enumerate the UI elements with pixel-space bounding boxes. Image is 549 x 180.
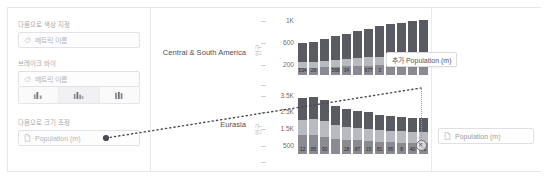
bar-segment [408, 118, 417, 132]
bar-value-label: 568 [331, 67, 340, 73]
right-drop-field[interactable]: Population (m) [438, 128, 534, 144]
color-by-input[interactable]: 메트릭 이름 [18, 32, 140, 48]
bar-segment [353, 111, 362, 128]
bar-segment [375, 26, 384, 56]
bar-segment [364, 57, 373, 65]
bar-segment [375, 57, 384, 66]
y-axis-panel-0: 인구 1K 600 200 [250, 11, 296, 89]
bar: 34 [342, 34, 351, 75]
bar-value-label: 85 [309, 146, 318, 152]
bar [397, 23, 406, 75]
size-by-value: Population (m) [35, 135, 81, 142]
bar-segment [342, 34, 351, 59]
bar-segment [353, 66, 362, 75]
bar-segment [364, 29, 373, 58]
bar-segment [397, 23, 406, 56]
break-by-label: 브레이크 바이 [18, 59, 140, 68]
bar-segment [353, 31, 362, 58]
bar: 12 [298, 98, 307, 154]
app-root: 다음으로 색상 지정 메트릭 이름 브레이크 바이 [0, 0, 549, 180]
bar: 90 [320, 100, 329, 154]
document-icon [444, 132, 451, 140]
bar-value-label: 12 [298, 146, 307, 152]
bar-segment [331, 139, 340, 154]
bar-segment [342, 109, 351, 127]
bar-segment [298, 98, 307, 120]
bar-value-label: 15 [364, 146, 373, 152]
y-tick-0-1: 600 [283, 39, 294, 46]
bar: 81 [375, 115, 384, 154]
bar-segment [320, 61, 329, 68]
size-by-input[interactable]: Population (m) [18, 130, 140, 146]
bar-segment [298, 120, 307, 135]
bar-segment [364, 112, 373, 128]
bars-stacked-icon-button[interactable] [59, 87, 99, 103]
y-tick-1-2: 1.5K [280, 125, 294, 132]
bar: 40 [408, 118, 417, 154]
chart-panel-1: 128590188715819584021 [296, 89, 430, 168]
bar-segment [397, 131, 406, 142]
bar-value-label: 18 [342, 146, 351, 152]
drag-tooltip-label: 추가 Population (m) [392, 55, 451, 65]
y-tick-0-0: 1K [286, 17, 294, 24]
bar-segment [386, 116, 395, 131]
close-icon[interactable] [416, 140, 427, 151]
bar [320, 39, 329, 75]
right-drop-panel: Population (m) [431, 8, 541, 171]
y-axis-column: 인구 1K 600 200 인구 3.5K 2.5K 1.5K 500 [250, 8, 296, 171]
bar: 87 [353, 111, 362, 154]
bar-group-2 [298, 170, 428, 171]
bar-segment [298, 43, 307, 62]
bars-clustered-icon-button[interactable] [100, 87, 139, 103]
bar: 568 [331, 36, 340, 75]
bar-segment [309, 42, 318, 62]
bar [386, 24, 395, 75]
bar-value-label: 87 [353, 146, 362, 152]
chart-type-toggle-group [18, 87, 140, 104]
row-label-eurasia: Eurasia [220, 120, 246, 129]
bar: 15 [364, 112, 373, 154]
bar-segment [397, 117, 406, 132]
bar-value-label: 534 [298, 67, 307, 73]
settings-sidebar: 다음으로 색상 지정 메트릭 이름 브레이크 바이 [8, 8, 151, 171]
y-tick-1-1: 2.5K [280, 108, 294, 115]
bar: 3 [375, 26, 384, 75]
bar-segment [331, 125, 340, 139]
bar: 677 [364, 29, 373, 76]
y-tick-1-0: 3.5K [280, 92, 294, 99]
row-label-central-south-america: Central & South America [163, 48, 246, 57]
break-by-input[interactable]: 메트릭 이름 [18, 71, 140, 87]
row-label-column: Central & South America Eurasia [152, 8, 250, 171]
tag-icon [24, 76, 31, 83]
break-by-group: 브레이크 바이 메트릭 이름 [18, 59, 140, 104]
bar-segment [331, 106, 340, 125]
bar: 8 [397, 117, 406, 154]
bars-clustered-icon [114, 91, 125, 100]
bar-segment [375, 115, 384, 130]
bar-segment [309, 119, 318, 135]
bar-value-label: 90 [320, 146, 329, 152]
bar-segment [331, 36, 340, 60]
bar-segment [364, 129, 373, 141]
bars-grouped-icon-button[interactable] [19, 87, 59, 103]
bar-segment [342, 59, 351, 66]
bar-segment [419, 20, 428, 55]
bar-segment [320, 121, 329, 137]
y-axis-panel-1: 인구 3.5K 2.5K 1.5K 500 [250, 90, 296, 168]
bar-value-label: 34 [342, 67, 351, 73]
bar-segment [353, 58, 362, 66]
y-tick-1-3: 500 [283, 142, 294, 149]
bar: 95 [386, 116, 395, 154]
color-by-group: 다음으로 색상 지정 메트릭 이름 [18, 20, 140, 48]
bar-value-label: 81 [375, 146, 384, 152]
bar: 534 [298, 43, 307, 75]
bar-group-1: 128590188715819584021 [298, 93, 428, 154]
drag-tooltip: 추가 Population (m) [386, 52, 457, 67]
bar-segment [408, 21, 417, 55]
color-by-label: 다음으로 색상 지정 [18, 20, 140, 29]
chart-plot-area: 53429568346773 128590188715819584021 [296, 8, 430, 171]
bar: 85 [309, 97, 318, 154]
bar-segment [320, 100, 329, 121]
bar-segment [320, 39, 329, 61]
bar-segment [353, 128, 362, 141]
